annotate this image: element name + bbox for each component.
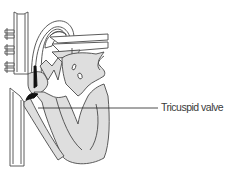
inferior-vena-cava xyxy=(10,88,24,166)
ventricles xyxy=(34,84,109,164)
tricuspid-valve-label: Tricuspid valve xyxy=(161,101,223,113)
heart-diagram xyxy=(0,0,228,174)
superior-vena-cava xyxy=(14,12,28,74)
vessel-branches xyxy=(5,28,14,73)
